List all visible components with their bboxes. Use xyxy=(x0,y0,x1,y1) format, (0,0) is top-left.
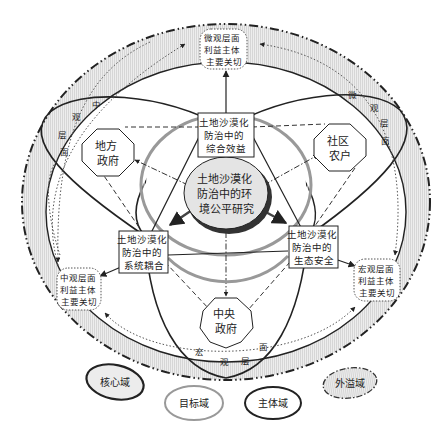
legend-label: 主体域 xyxy=(258,397,288,409)
core-line-2: 防治中的环 xyxy=(197,187,252,201)
svg-text:土地沙漠化 防治中的环 境公平研究: 土地沙漠化 防治中的环 境公平研究 xyxy=(197,172,256,216)
goal-line: 防治中的 xyxy=(122,247,162,258)
concern-box-meso-level: 中观层面 利益主体 主要关切 xyxy=(57,268,101,310)
goal-line: 系统耦合 xyxy=(124,260,164,271)
level-char: 层 xyxy=(58,130,67,140)
concern-line: 微观层面 xyxy=(204,33,240,43)
subject-line: 地方 xyxy=(95,139,117,153)
subject-line: 中央 xyxy=(213,308,235,321)
goal-line: 综合效益 xyxy=(206,143,246,154)
level-char: 观 xyxy=(220,357,229,367)
concern-line: 中观层面 xyxy=(60,273,96,283)
subject-line: 农户 xyxy=(329,149,351,163)
goal-box-comprehensive-benefit: 土地沙漠化 防治中的 综合效益 xyxy=(198,113,254,157)
legend-label: 外溢域 xyxy=(335,377,365,389)
subject-octagon-community-farmers: 社区 农户 xyxy=(314,124,366,171)
level-char: 宏 xyxy=(195,347,204,357)
concern-line: 宏观层面 xyxy=(358,264,394,274)
environmental-equity-diagram: 土地沙漠化 防治中的环 境公平研究 土地沙漠化 防治中的 综合效益 土地沙漠化 … xyxy=(0,0,443,437)
svg-text:宏观层面 利益主体 主要关切: 宏观层面 利益主体 主要关切 xyxy=(358,264,397,298)
goal-line: 防治中的 xyxy=(204,130,244,141)
goal-line: 防治中的 xyxy=(292,242,332,253)
level-char: 面 xyxy=(60,147,69,157)
level-char: 层 xyxy=(241,356,250,366)
level-char: 微 xyxy=(348,90,357,100)
svg-text:微观层面 利益主体 主要关切: 微观层面 利益主体 主要关切 xyxy=(204,33,243,67)
concern-box-micro-level: 微观层面 利益主体 主要关切 xyxy=(200,29,247,69)
goal-line: 土地沙漠化 xyxy=(287,229,337,240)
subject-line: 政府 xyxy=(97,154,119,168)
svg-text:土地沙漠化 防治中的 系统耦合: 土地沙漠化 防治中的 系统耦合 xyxy=(117,234,170,271)
goal-line: 生态安全 xyxy=(294,255,334,266)
legend-core-domain: 核心域 xyxy=(83,359,147,404)
goal-line: 土地沙漠化 xyxy=(199,117,249,128)
level-char: 观 xyxy=(72,112,81,122)
goal-line: 土地沙漠化 xyxy=(117,234,167,245)
subject-line: 社区 xyxy=(327,134,349,148)
concern-line: 利益主体 xyxy=(358,276,394,286)
concern-line: 主要关切 xyxy=(359,288,395,298)
subject-line: 政府 xyxy=(215,322,237,336)
level-char: 层 xyxy=(380,118,389,128)
legend-goal-domain: 目标域 xyxy=(165,386,223,420)
concern-box-macro-level: 宏观层面 利益主体 主要关切 xyxy=(354,259,400,301)
svg-text:土地沙漠化 防治中的 综合效益: 土地沙漠化 防治中的 综合效益 xyxy=(199,117,252,154)
concern-line: 主要关切 xyxy=(61,297,97,307)
level-char: 中 xyxy=(92,100,101,110)
svg-text:土地沙漠化 防治中的 生态安全: 土地沙漠化 防治中的 生态安全 xyxy=(287,229,340,266)
legend-subject-domain: 主体域 xyxy=(245,387,301,419)
core-line-1: 土地沙漠化 xyxy=(197,172,252,186)
legend-spillover-domain: 外溢域 xyxy=(321,364,379,401)
legend-label: 核心域 xyxy=(100,376,130,388)
svg-text:中观层面 利益主体 主要关切: 中观层面 利益主体 主要关切 xyxy=(60,273,99,307)
legend-label: 目标域 xyxy=(179,397,209,409)
subject-octagon-local-government: 地方 政府 xyxy=(82,129,134,176)
goal-box-ecological-security: 土地沙漠化 防治中的 生态安全 xyxy=(287,226,340,268)
level-char: 面 xyxy=(259,342,268,352)
goal-box-system-coupling: 土地沙漠化 防治中的 系统耦合 xyxy=(117,231,170,273)
level-char: 观 xyxy=(370,103,379,113)
level-char: 面 xyxy=(381,136,390,146)
core-line-3: 境公平研究 xyxy=(199,202,254,216)
concern-line: 利益主体 xyxy=(60,285,96,295)
concern-line: 主要关切 xyxy=(206,57,242,67)
concern-line: 利益主体 xyxy=(204,45,240,55)
